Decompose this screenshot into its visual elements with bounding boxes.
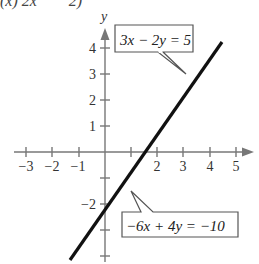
svg-text:4: 4 (207, 159, 214, 174)
callout-eq1: 3x − 2y = 5 (115, 25, 193, 74)
y-axis-arrow-icon (101, 28, 110, 40)
svg-text:−2: −2 (45, 159, 60, 174)
svg-text:−3: −3 (19, 159, 34, 174)
coordinate-plane: y −3 −2 −1 2 3 4 5 4 3 2 1 −2 (0, 0, 259, 264)
y-axis-label: y (99, 9, 108, 24)
svg-text:3: 3 (89, 67, 96, 82)
callout-eq2: −6x + 4y = −10 (122, 191, 238, 237)
x-tick-labels: −3 −2 −1 2 3 4 5 (19, 159, 240, 174)
svg-text:5: 5 (233, 159, 240, 174)
svg-text:4: 4 (89, 41, 96, 56)
svg-text:2: 2 (89, 93, 96, 108)
y-tick-labels: 4 3 2 1 −2 (81, 41, 96, 212)
equation-label-1: 3x − 2y = 5 (119, 32, 192, 48)
svg-text:3: 3 (180, 159, 187, 174)
svg-text:−2: −2 (81, 197, 96, 212)
svg-text:2: 2 (154, 159, 161, 174)
svg-text:1: 1 (89, 119, 96, 134)
svg-text:−1: −1 (71, 159, 86, 174)
equation-label-2: −6x + 4y = −10 (126, 218, 225, 234)
x-axis-arrow-icon (242, 148, 254, 157)
